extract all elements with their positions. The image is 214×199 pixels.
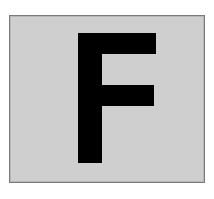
letter-sign: F — [9, 15, 205, 183]
sign-letter-text: F — [10, 16, 11, 17]
letter-f-top-bar — [78, 33, 156, 54]
letter-f-middle-bar — [78, 85, 154, 106]
